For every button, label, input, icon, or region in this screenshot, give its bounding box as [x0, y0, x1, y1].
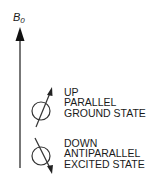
- spin-down-icon: [32, 138, 53, 174]
- spin-state-diagram: B0 UP PARALLEL GROUND STATE DOWN ANTIPAR…: [0, 0, 167, 182]
- spin-up-icon: [32, 87, 53, 127]
- field-subscript: 0: [20, 16, 24, 25]
- up-state-line-3: GROUND STATE: [64, 108, 146, 118]
- b0-label: B0: [13, 11, 25, 25]
- up-state-label: UP PARALLEL GROUND STATE: [64, 87, 146, 118]
- down-state-label: DOWN ANTIPARALLEL EXCITED STATE: [64, 138, 145, 169]
- b0-field-arrow: [16, 27, 25, 168]
- down-state-line-3: EXCITED STATE: [64, 159, 145, 169]
